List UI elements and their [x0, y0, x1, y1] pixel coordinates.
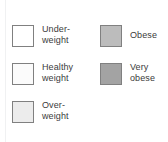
legend-swatch-very-obese: [100, 63, 122, 85]
legend-label-healthy-weight: Healthy weight: [42, 62, 73, 84]
legend-item-obese[interactable]: Obese: [100, 24, 157, 47]
legend-item-very-obese[interactable]: Very obese: [100, 62, 155, 85]
bmi-legend: Under- weight Healthy weight Over- weigh…: [0, 0, 168, 142]
legend-label-very-obese: Very obese: [130, 62, 155, 84]
legend-swatch-obese: [100, 25, 122, 47]
legend-columns: Under- weight Healthy weight Over- weigh…: [0, 0, 168, 142]
legend-label-underweight: Under- weight: [42, 24, 70, 46]
legend-label-obese: Obese: [130, 30, 157, 41]
legend-item-overweight[interactable]: Over- weight: [12, 100, 69, 123]
legend-swatch-overweight: [12, 101, 34, 123]
legend-swatch-underweight: [12, 25, 34, 47]
legend-item-underweight[interactable]: Under- weight: [12, 24, 70, 47]
legend-label-overweight: Over- weight: [42, 100, 69, 122]
legend-item-healthy-weight[interactable]: Healthy weight: [12, 62, 73, 85]
legend-swatch-healthy-weight: [12, 63, 34, 85]
